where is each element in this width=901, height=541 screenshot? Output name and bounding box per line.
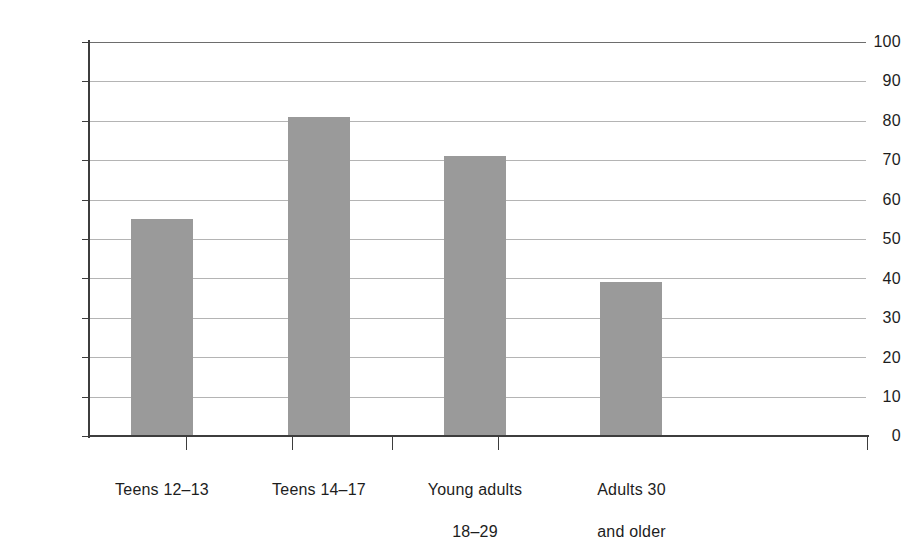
x-axis-separator — [392, 437, 393, 450]
gridline-80 — [88, 121, 866, 122]
x-axis-label-line1: Teens 14–17 — [249, 479, 389, 500]
bar-teens-12-13[interactable] — [131, 219, 193, 436]
y-axis-line — [88, 40, 90, 438]
bar-teens-14-17[interactable] — [288, 117, 350, 436]
gridline-90 — [88, 81, 866, 82]
x-axis-separator — [498, 437, 499, 450]
x-axis-separator — [867, 437, 868, 450]
x-axis-label-line1: Adults 30 — [559, 479, 704, 500]
bar-young-adults-18-29[interactable] — [444, 156, 506, 436]
x-axis-label-teens-12-13: Teens 12–13 — [92, 458, 232, 521]
gridline-100 — [88, 42, 866, 43]
x-axis-separator — [292, 437, 293, 450]
x-axis-label-line1: Young adults — [400, 479, 550, 500]
x-axis-label-line2: and older — [559, 521, 704, 541]
bar-adults-30-older[interactable] — [600, 282, 662, 436]
x-axis-label-teens-14-17: Teens 14–17 — [249, 458, 389, 521]
x-axis-label-adults-30-older: Adults 30 and older — [559, 458, 704, 541]
x-axis-label-line2: 18–29 — [400, 521, 550, 541]
x-axis-label-line1: Teens 12–13 — [92, 479, 232, 500]
x-axis-line — [88, 435, 869, 437]
x-axis-separator — [186, 437, 187, 450]
x-axis-label-young-adults-18-29: Young adults 18–29 — [400, 458, 550, 541]
